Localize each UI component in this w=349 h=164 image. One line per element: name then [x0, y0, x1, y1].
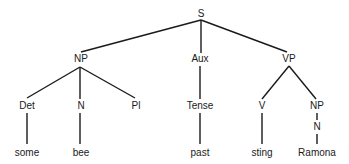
- edge-np1-det: [27, 67, 80, 98]
- node-pl: Pl: [132, 101, 141, 111]
- node-np2: NP: [310, 101, 324, 111]
- node-v: V: [259, 101, 266, 111]
- edge-s-np1: [81, 20, 201, 52]
- node-np1: NP: [74, 54, 88, 64]
- node-n2: N: [313, 122, 320, 132]
- node-past: past: [191, 148, 210, 158]
- node-bee: bee: [73, 148, 90, 158]
- node-tense: Tense: [187, 101, 214, 111]
- node-some: some: [15, 148, 39, 158]
- node-aux: Aux: [191, 54, 208, 64]
- node-n1: N: [77, 101, 84, 111]
- edge-s-vp: [201, 20, 287, 52]
- node-det: Det: [19, 101, 35, 111]
- node-sting: sting: [251, 148, 272, 158]
- node-s: S: [198, 9, 205, 19]
- edge-vp-np2: [289, 66, 316, 99]
- node-vp: VP: [282, 54, 295, 64]
- edge-vp-v: [262, 66, 289, 99]
- edge-np1-pl: [80, 67, 135, 98]
- syntax-tree-edges: [0, 0, 349, 164]
- node-ramona: Ramona: [298, 148, 336, 158]
